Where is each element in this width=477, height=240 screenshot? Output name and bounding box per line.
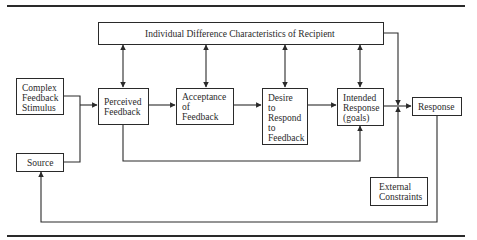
- individual-differences-label: Individual Difference Characteristics of…: [145, 29, 335, 39]
- intended-response-label: Intended Response (goals): [343, 93, 379, 123]
- response-label: Response: [418, 102, 454, 112]
- individual-differences-box: Individual Difference Characteristics of…: [98, 22, 384, 45]
- acceptance-of-feedback-box: Acceptance of Feedback: [176, 88, 234, 125]
- complex-feedback-stimulus-box: Complex Feedback Stimulus: [16, 78, 64, 115]
- perceived-feedback-box: Perceived Feedback: [98, 88, 149, 125]
- external-constraints-label: External Constraints: [379, 182, 422, 202]
- intended-response-box: Intended Response (goals): [337, 88, 384, 126]
- acceptance-of-feedback-label: Acceptance of Feedback: [182, 92, 226, 122]
- external-constraints-box: External Constraints: [370, 177, 428, 206]
- perceived-feedback-label: Perceived Feedback: [104, 97, 141, 117]
- response-box: Response: [412, 97, 462, 116]
- complex-feedback-stimulus-label: Complex Feedback Stimulus: [22, 83, 58, 113]
- source-box: Source: [16, 153, 64, 172]
- source-label: Source: [27, 158, 53, 168]
- desire-to-respond-box: Desire to Respond to Feedback: [262, 88, 308, 145]
- desire-to-respond-label: Desire to Respond to Feedback: [268, 93, 304, 143]
